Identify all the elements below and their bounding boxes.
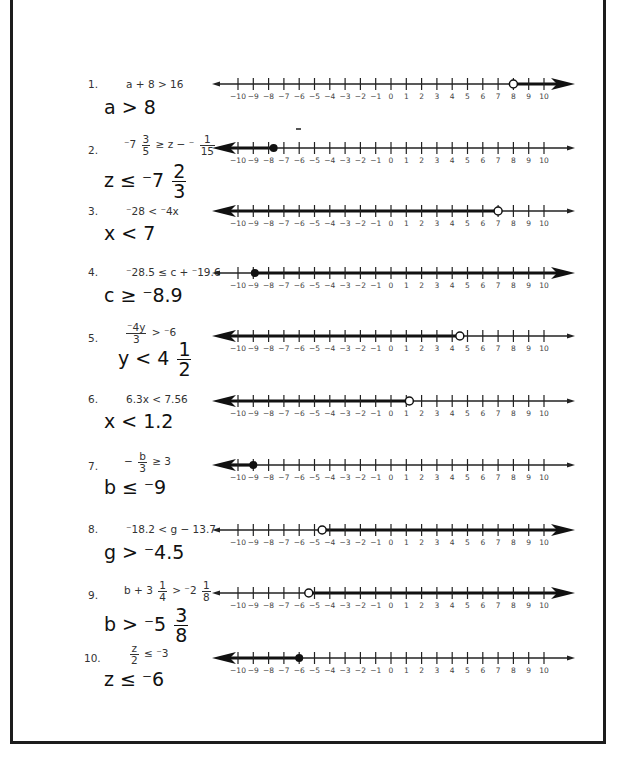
svg-text:9: 9 — [526, 281, 531, 290]
svg-text:3: 3 — [435, 473, 440, 482]
svg-text:−2: −2 — [355, 92, 366, 101]
problem-equation: ⁻18.2 < g − 13.7 — [126, 523, 216, 535]
fraction: 38 — [174, 606, 188, 645]
svg-text:−9: −9 — [248, 156, 259, 165]
svg-text:4: 4 — [450, 219, 455, 228]
svg-text:−10: −10 — [230, 281, 246, 290]
svg-text:5: 5 — [465, 92, 470, 101]
svg-text:−10: −10 — [230, 666, 246, 675]
svg-text:1: 1 — [404, 156, 409, 165]
numerator: z — [130, 643, 139, 655]
svg-text:−2: −2 — [355, 219, 366, 228]
denominator: 2 — [177, 360, 191, 379]
problem-answer: g > ⁻4.5 — [104, 541, 184, 563]
problem-equation: b + 3 14 > ⁻2 18 — [124, 580, 213, 602]
svg-text:−1: −1 — [370, 219, 381, 228]
svg-text:−6: −6 — [294, 344, 305, 353]
svg-text:−8: −8 — [263, 156, 274, 165]
svg-text:10: 10 — [539, 344, 549, 353]
numerator: b — [138, 451, 147, 463]
svg-text:−10: −10 — [230, 344, 246, 353]
numerator: 3 — [142, 134, 151, 146]
svg-text:1: 1 — [404, 538, 409, 547]
svg-text:−4: −4 — [324, 92, 335, 101]
svg-text:7: 7 — [496, 601, 501, 610]
fraction: 35 — [142, 134, 151, 156]
svg-text:−8: −8 — [263, 92, 274, 101]
svg-text:6: 6 — [480, 219, 485, 228]
svg-text:4: 4 — [450, 666, 455, 675]
svg-text:−10: −10 — [230, 473, 246, 482]
problem-answer: x < 1.2 — [104, 410, 173, 432]
worksheet-border — [10, 0, 606, 744]
svg-text:3: 3 — [435, 156, 440, 165]
eq-rhs: ≤ ⁻3 — [144, 647, 168, 659]
problem-number: 10. — [84, 652, 101, 664]
problem-answer: z ≤ ⁻7 23 — [104, 162, 188, 201]
problem-answer: a > 8 — [104, 96, 156, 118]
svg-text:−1: −1 — [370, 92, 381, 101]
svg-text:−7: −7 — [278, 409, 289, 418]
svg-text:−4: −4 — [324, 281, 335, 290]
svg-text:3: 3 — [435, 538, 440, 547]
svg-text:3: 3 — [435, 281, 440, 290]
svg-text:5: 5 — [465, 156, 470, 165]
svg-text:9: 9 — [526, 538, 531, 547]
svg-text:9: 9 — [526, 219, 531, 228]
svg-text:6: 6 — [480, 601, 485, 610]
svg-text:−8: −8 — [263, 666, 274, 675]
svg-text:7: 7 — [496, 92, 501, 101]
number-line: −10−9−8−7−6−5−4−3−2−1012345678910 — [205, 64, 585, 104]
denominator: 5 — [142, 146, 151, 157]
svg-text:−5: −5 — [309, 219, 320, 228]
svg-text:2: 2 — [419, 156, 424, 165]
svg-text:9: 9 — [526, 409, 531, 418]
svg-text:9: 9 — [526, 666, 531, 675]
number-line: −10−9−8−7−6−5−4−3−2−1012345678910 — [205, 638, 585, 678]
svg-text:−4: −4 — [324, 538, 335, 547]
svg-text:5: 5 — [465, 538, 470, 547]
problem-number: 3. — [88, 205, 98, 217]
svg-text:7: 7 — [496, 156, 501, 165]
svg-text:−10: −10 — [230, 92, 246, 101]
svg-text:4: 4 — [450, 156, 455, 165]
svg-text:−3: −3 — [340, 219, 351, 228]
svg-text:0: 0 — [389, 538, 394, 547]
svg-text:7: 7 — [496, 473, 501, 482]
svg-text:1: 1 — [404, 219, 409, 228]
svg-text:8: 8 — [511, 344, 516, 353]
svg-text:−8: −8 — [263, 538, 274, 547]
svg-text:6: 6 — [480, 538, 485, 547]
svg-text:5: 5 — [465, 473, 470, 482]
denominator: 3 — [138, 463, 147, 474]
svg-text:8: 8 — [511, 92, 516, 101]
problem-answer: z ≤ ⁻6 — [104, 668, 164, 690]
number-line: −10−9−8−7−6−5−4−3−2−1012345678910 — [205, 445, 585, 485]
number-line: −10−9−8−7−6−5−4−3−2−1012345678910 — [205, 573, 585, 613]
svg-text:−8: −8 — [263, 344, 274, 353]
svg-text:1: 1 — [404, 409, 409, 418]
svg-text:7: 7 — [496, 219, 501, 228]
svg-text:−4: −4 — [324, 156, 335, 165]
svg-text:10: 10 — [539, 219, 549, 228]
problem-number: 2. — [88, 144, 98, 156]
svg-text:−10: −10 — [230, 156, 246, 165]
svg-text:6: 6 — [480, 666, 485, 675]
fraction: 14 — [158, 580, 167, 602]
svg-text:−4: −4 — [324, 219, 335, 228]
svg-text:4: 4 — [450, 281, 455, 290]
svg-text:0: 0 — [389, 601, 394, 610]
svg-text:−9: −9 — [248, 601, 259, 610]
svg-text:9: 9 — [526, 473, 531, 482]
svg-text:10: 10 — [539, 473, 549, 482]
svg-text:−7: −7 — [278, 219, 289, 228]
problem-equation: ⁻28 < ⁻4x — [126, 205, 179, 217]
svg-text:−1: −1 — [370, 473, 381, 482]
svg-text:7: 7 — [496, 538, 501, 547]
svg-text:−3: −3 — [340, 344, 351, 353]
svg-text:6: 6 — [480, 92, 485, 101]
problem-number: 6. — [88, 393, 98, 405]
svg-text:0: 0 — [389, 219, 394, 228]
svg-text:−8: −8 — [263, 409, 274, 418]
svg-text:−3: −3 — [340, 281, 351, 290]
